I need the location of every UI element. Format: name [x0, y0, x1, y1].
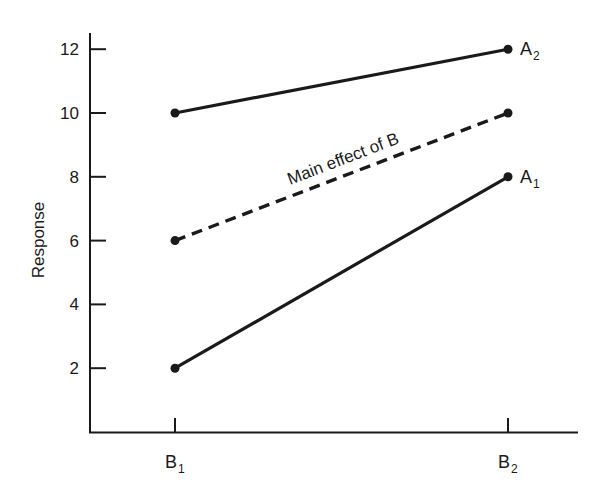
data-point [171, 236, 180, 245]
series-label: A1 [520, 167, 540, 191]
series-label: A2 [520, 39, 540, 63]
y-tick-label: 10 [60, 104, 79, 123]
data-point [171, 364, 180, 373]
y-ticks: 24681012 [60, 40, 106, 378]
y-tick-label: 4 [70, 295, 79, 314]
data-point [504, 45, 513, 54]
x-tick-label: B1 [165, 452, 185, 476]
series-a2: A2 [171, 39, 541, 117]
y-tick-label: 6 [70, 232, 79, 251]
y-tick-label: 8 [70, 168, 79, 187]
series-line [175, 113, 508, 241]
series-line [175, 177, 508, 368]
x-ticks: B1B2 [165, 418, 518, 476]
series-line [175, 49, 508, 113]
y-axis-label: Response [29, 202, 48, 279]
y-tick-label: 2 [70, 359, 79, 378]
y-tick-label: 12 [60, 40, 79, 59]
series-main-effect-of-b [171, 109, 513, 246]
interaction-chart: 24681012 B1B2 Response A2A1Main effect o… [0, 0, 613, 494]
series-group: A2A1Main effect of B [171, 39, 541, 373]
data-point [504, 109, 513, 118]
data-point [171, 109, 180, 118]
series-a1: A1 [171, 167, 541, 373]
x-tick-label: B2 [498, 452, 518, 476]
data-point [504, 172, 513, 181]
